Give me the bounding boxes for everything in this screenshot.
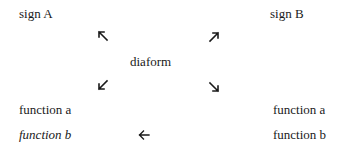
arrow-down-right-icon [208,81,220,93]
arrow-left-icon [138,129,150,141]
sign-a-label: sign A [19,6,53,21]
arrow-down-left-icon [97,79,109,91]
sign-b-label: sign B [270,6,304,21]
right-function-a: function a [273,102,325,117]
left-function-a: function a [19,102,71,117]
arrow-up-right-icon [208,31,220,43]
left-function-b: function b [19,127,71,142]
arrow-up-left-icon [97,30,109,42]
right-function-b: function b [273,127,326,142]
diaform-label: diaform [130,54,171,69]
